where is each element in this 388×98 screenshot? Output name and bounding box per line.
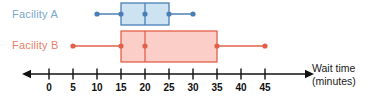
point-q3 [166,11,171,16]
axis-tick-label: 25 [163,82,175,93]
axis-tick-label: 15 [115,82,127,93]
axis-tick-label: 45 [259,82,271,93]
axis-tick-label: 30 [187,82,199,93]
axis-tick-label: 0 [46,82,52,93]
point-median [142,11,147,16]
point-median [142,43,147,48]
box-plot-facility-a [94,3,195,25]
axis-tick-label: 10 [91,82,103,93]
axis-title-line2: (minutes) [312,75,356,88]
point-q3 [214,43,219,48]
axis-arrow-left [22,70,31,78]
box-iqr [121,31,217,62]
axis-title-line1: Wait time [312,62,356,75]
number-line-axis: 051015202530354045 [22,69,314,94]
point-max [190,11,195,16]
axis-tick-label: 20 [139,82,151,93]
point-min [70,43,75,48]
point-max [262,43,267,48]
axis-tick-label: 5 [70,82,76,93]
axis-tick-label: 40 [235,82,247,93]
box-plot-facility-b [70,31,267,62]
axis-tick-label: 35 [211,82,223,93]
point-q1 [118,11,123,16]
axis-title: Wait time (minutes) [312,62,356,88]
point-min [94,11,99,16]
box-plot-chart: Facility A Facility B 051015202530354045… [0,0,388,98]
point-q1 [118,43,123,48]
